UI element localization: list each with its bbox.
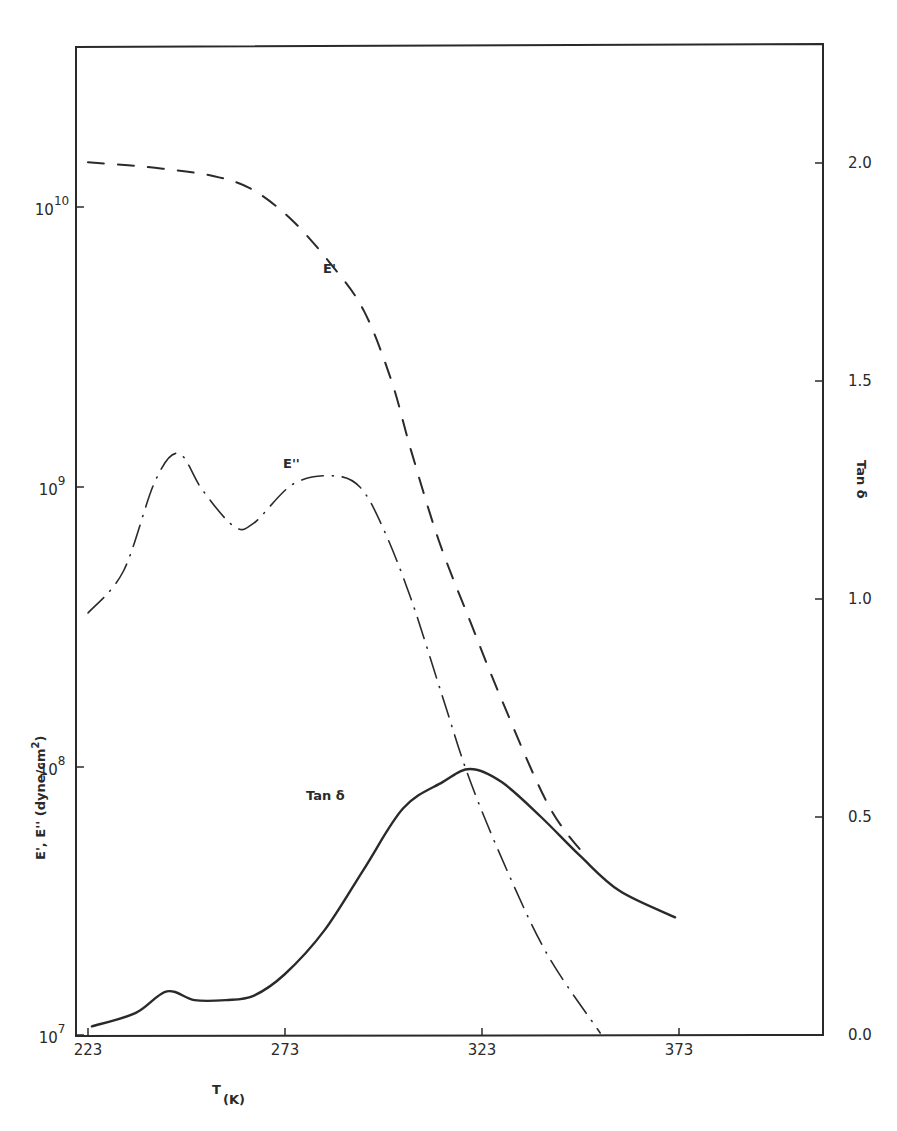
e-double-prime-curve — [88, 453, 600, 1033]
y2-tick-label: 0.5 — [848, 808, 872, 826]
e-double-prime-label: E'' — [283, 456, 300, 471]
x-tick-label: 373 — [665, 1041, 694, 1059]
chart: 223273323373 1010109108107 2.01.51.00.50… — [0, 0, 897, 1131]
y2-tick-label: 2.0 — [848, 154, 872, 172]
x-tick-label: 273 — [271, 1041, 300, 1059]
plot-frame — [76, 44, 823, 1036]
y2-tick-label: 0.0 — [848, 1026, 872, 1044]
e-prime-curve — [88, 162, 588, 859]
y-tick-label: 107 — [39, 1022, 66, 1047]
x-axis-title-t: T — [212, 1082, 221, 1097]
y2-tick-label: 1.0 — [848, 590, 872, 608]
x-tick-label: 323 — [468, 1041, 497, 1059]
e-prime-label: E' — [323, 261, 336, 276]
right-y-axis-title: Tan δ — [854, 460, 869, 499]
left-y-axis-title: E', E'' (dyne/cm2) — [30, 736, 48, 860]
x-axis-title-unit: (K) — [223, 1092, 245, 1107]
tan-delta-label: Tan δ — [306, 788, 345, 803]
series-layer — [88, 162, 675, 1033]
x-axis-title: T (K) — [212, 1082, 245, 1107]
y-tick-label: 1010 — [35, 194, 69, 219]
y2-tick-label: 1.5 — [848, 372, 872, 390]
y-tick-label: 109 — [39, 474, 66, 499]
x-tick-label: 223 — [74, 1041, 103, 1059]
tan-delta-curve — [92, 769, 675, 1026]
